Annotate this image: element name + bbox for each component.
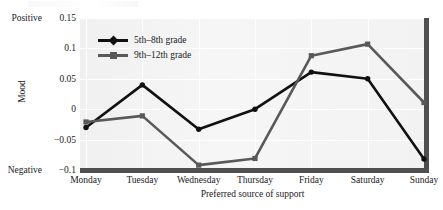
- gridline-vertical: [255, 18, 256, 170]
- y-tick-label: 0.15: [44, 13, 76, 23]
- legend-label: 5th–8th grade: [134, 34, 187, 47]
- x-tick-label: Wednesday: [177, 175, 221, 186]
- y-axis-title: Mood: [17, 62, 28, 122]
- chart-figure: 0.150.10.050−0.05−0.1PositiveNegative Mo…: [0, 0, 443, 210]
- chart-legend: 5th–8th grade 9th–12th grade: [98, 34, 218, 64]
- x-tick-label: Sunday: [410, 175, 439, 186]
- y-tick-label: −0.1: [44, 165, 76, 175]
- legend-diamond-marker-icon: [109, 36, 119, 46]
- legend-label: 9th–12th grade: [134, 49, 191, 62]
- x-tick-label: Saturday: [351, 175, 385, 186]
- y-tick-label: 0.05: [44, 74, 76, 84]
- legend-item-9th-12th-grade[interactable]: 9th–12th grade: [98, 49, 218, 62]
- right-axis-line: [424, 18, 429, 173]
- x-tick-label: Thursday: [237, 175, 273, 186]
- gridline-horizontal: [80, 140, 425, 141]
- y-tick-label: −0.05: [44, 135, 76, 145]
- x-tick-label: Tuesday: [126, 175, 158, 186]
- gridline-horizontal: [80, 109, 425, 110]
- y-tick-label: 0: [44, 104, 76, 114]
- y-axis-positive-label: Positive: [0, 13, 42, 23]
- y-tick-label: 0.1: [44, 43, 76, 53]
- legend-item-5th-8th-grade[interactable]: 5th–8th grade: [98, 34, 218, 47]
- x-tick-label: Monday: [70, 175, 102, 186]
- x-axis-line: [80, 168, 429, 173]
- gridline-vertical: [311, 18, 312, 170]
- legend-square-marker-icon: [110, 52, 117, 59]
- gridline-horizontal: [80, 18, 425, 19]
- x-tick-label: Friday: [299, 175, 324, 186]
- gridline-horizontal: [80, 79, 425, 80]
- gridline-vertical: [368, 18, 369, 170]
- gridline-vertical: [86, 18, 87, 170]
- x-axis-title: Preferred source of support: [80, 189, 425, 200]
- y-axis-negative-label: Negative: [0, 165, 42, 175]
- top-edge-artifact: [28, 1, 138, 7]
